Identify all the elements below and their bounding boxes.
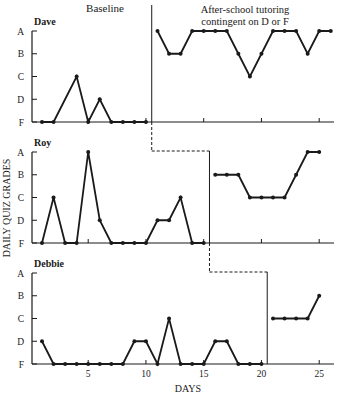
- treatment-phase-label-line2: contingent on D or F: [201, 16, 289, 27]
- data-point: [306, 317, 310, 321]
- y-tick-label: B: [18, 49, 24, 59]
- panel-roy: RoyABCDF: [17, 137, 334, 249]
- data-point: [75, 75, 79, 79]
- data-point: [144, 120, 148, 124]
- data-point: [75, 362, 79, 366]
- data-point: [213, 29, 217, 33]
- y-tick-label: B: [18, 170, 24, 180]
- data-point: [40, 339, 44, 343]
- panel-debbie: DebbieABCDF510152025: [17, 258, 334, 379]
- data-point: [236, 173, 240, 177]
- data-point: [283, 317, 287, 321]
- data-point: [213, 339, 217, 343]
- data-point: [98, 362, 102, 366]
- data-point: [179, 196, 183, 200]
- data-point: [294, 317, 298, 321]
- y-tick-label: F: [19, 239, 24, 249]
- baseline-phase-label: Baseline: [86, 2, 124, 14]
- data-point: [63, 241, 67, 245]
- panel-dave: DaveABCDF: [17, 16, 334, 128]
- data-point: [86, 362, 90, 366]
- data-point: [40, 241, 44, 245]
- multiple-baseline-chart: Baseline After-school tutoring contingen…: [0, 0, 337, 397]
- data-point: [190, 362, 194, 366]
- data-point: [317, 150, 321, 154]
- data-point: [294, 173, 298, 177]
- data-point: [271, 29, 275, 33]
- treatment-line: [215, 152, 319, 198]
- y-tick-label: C: [18, 193, 24, 203]
- data-point: [283, 196, 287, 200]
- data-point: [109, 362, 113, 366]
- chart-canvas: Baseline After-school tutoring contingen…: [0, 0, 337, 397]
- panels-group: DaveABCDFRoyABCDFDebbieABCDF510152025: [17, 16, 334, 379]
- baseline-line: [42, 77, 146, 123]
- data-point: [167, 317, 171, 321]
- data-point: [144, 241, 148, 245]
- data-point: [236, 52, 240, 56]
- data-point: [86, 150, 90, 154]
- data-point: [156, 362, 160, 366]
- data-point: [202, 362, 206, 366]
- data-point: [329, 29, 333, 33]
- y-tick-label: A: [17, 269, 24, 279]
- x-axis-label: DAYS: [175, 383, 201, 394]
- y-tick-label: C: [18, 72, 24, 82]
- data-point: [156, 218, 160, 222]
- data-point: [202, 29, 206, 33]
- data-point: [248, 75, 252, 79]
- data-point: [98, 218, 102, 222]
- treatment-line: [273, 296, 319, 319]
- x-tick-label: 5: [86, 369, 91, 379]
- x-tick-label: 25: [314, 369, 324, 379]
- y-tick-label: F: [19, 360, 24, 370]
- data-point: [132, 339, 136, 343]
- data-point: [52, 196, 56, 200]
- x-tick-label: 20: [257, 369, 267, 379]
- panel-name: Debbie: [34, 258, 65, 269]
- data-point: [132, 120, 136, 124]
- data-point: [259, 52, 263, 56]
- y-tick-label: D: [17, 337, 24, 347]
- data-point: [259, 196, 263, 200]
- data-point: [306, 150, 310, 154]
- data-point: [236, 362, 240, 366]
- data-point: [86, 120, 90, 124]
- data-point: [167, 218, 171, 222]
- treatment-line: [158, 31, 331, 77]
- treatment-phase-label-line1: After-school tutoring: [201, 4, 290, 15]
- data-point: [271, 317, 275, 321]
- data-point: [52, 362, 56, 366]
- panel-name: Roy: [34, 137, 51, 148]
- data-point: [121, 362, 125, 366]
- data-point: [156, 29, 160, 33]
- data-point: [98, 97, 102, 101]
- data-point: [121, 241, 125, 245]
- data-point: [190, 241, 194, 245]
- data-point: [40, 120, 44, 124]
- data-point: [190, 29, 194, 33]
- data-point: [109, 241, 113, 245]
- data-point: [248, 362, 252, 366]
- data-point: [225, 339, 229, 343]
- y-tick-label: D: [17, 216, 24, 226]
- data-point: [294, 29, 298, 33]
- data-point: [144, 339, 148, 343]
- data-point: [259, 362, 263, 366]
- data-point: [317, 29, 321, 33]
- y-tick-label: A: [17, 27, 24, 37]
- x-tick-label: 10: [141, 369, 151, 379]
- panel-name: Dave: [34, 16, 56, 27]
- y-tick-label: F: [19, 118, 24, 128]
- data-point: [271, 196, 275, 200]
- data-point: [121, 120, 125, 124]
- data-point: [202, 241, 206, 245]
- data-point: [317, 294, 321, 298]
- data-point: [225, 29, 229, 33]
- data-point: [179, 52, 183, 56]
- data-point: [248, 196, 252, 200]
- y-tick-label: A: [17, 148, 24, 158]
- data-point: [283, 29, 287, 33]
- data-point: [132, 241, 136, 245]
- y-tick-label: B: [18, 291, 24, 301]
